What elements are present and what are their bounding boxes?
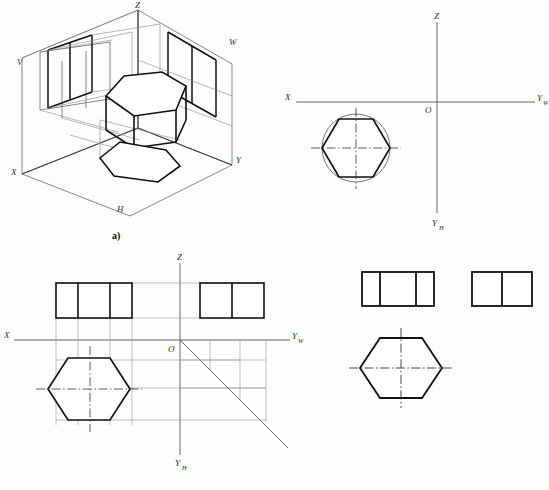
side-view-d <box>472 272 532 306</box>
label-origin-c: O <box>168 344 175 354</box>
label-v-plane-a: V <box>17 57 24 67</box>
label-yh-sub-c: H <box>181 464 187 471</box>
side-view-c <box>200 283 264 318</box>
miter-line-45deg-c <box>180 340 288 448</box>
projection-axes-b <box>296 22 535 213</box>
label-z-axis-b: Z <box>434 11 440 21</box>
panel-a-projection-box: Z X Y V W H a) <box>0 0 280 250</box>
hexagonal-prism-top-face <box>106 72 186 116</box>
label-y-axis-a: Y <box>236 155 242 165</box>
panel-b-axes-with-hexagon: Z X O Y W Y H b) <box>280 0 549 250</box>
label-origin-b: O <box>425 105 432 115</box>
label-x-axis-b: X <box>284 92 291 102</box>
label-yh-axis-b: Y <box>432 218 438 228</box>
label-z-axis-c: Z <box>177 252 183 262</box>
front-view-c <box>56 283 132 318</box>
panel-d-final-three-views: d) <box>320 250 549 490</box>
label-yh-axis-c: Y <box>175 458 181 468</box>
label-w-plane-a: W <box>229 37 238 47</box>
label-yw-sub-c: W <box>298 337 304 344</box>
caption-a: a) <box>112 230 120 241</box>
top-view-projection-on-h-plane <box>100 142 180 182</box>
projection-box-thin-lines <box>22 10 232 216</box>
panel-c-three-view-layout: Z X O Y W Y H c) <box>0 250 320 490</box>
label-z-axis-a: Z <box>135 0 141 10</box>
drawing-sheet: Z X Y V W H a) Z <box>0 0 549 490</box>
label-x-axis-c: X <box>3 330 10 340</box>
label-x-axis-a: X <box>10 167 17 177</box>
label-yh-sub-b: H <box>438 224 444 231</box>
label-yw-sub-b: W <box>543 99 549 106</box>
label-h-plane-a: H <box>116 204 124 214</box>
front-view-d <box>362 272 434 306</box>
front-view-projection-on-v-plane <box>48 35 92 108</box>
